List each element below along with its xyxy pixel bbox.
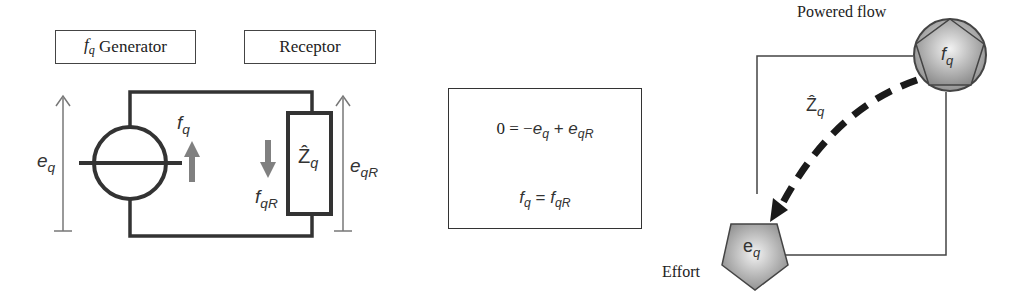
effort-label: Effort <box>662 263 700 281</box>
powered-flow-node-label: fq <box>941 44 953 68</box>
impedance-dashed-edge <box>778 80 917 212</box>
edge-impedance-label: Ẑq <box>806 95 824 119</box>
equation-flow: fq = fqR <box>449 188 641 210</box>
flow-arrow-down-icon <box>260 140 276 178</box>
equation-effort: 0 = −eq + eqR <box>449 119 641 141</box>
effort-left-label: eq <box>37 150 55 175</box>
effort-right-label: eqR <box>350 155 378 180</box>
graph-frame <box>757 56 946 255</box>
flow-arrow-up-icon <box>184 141 200 182</box>
effort-node-label: eq <box>743 236 760 260</box>
powered-flow-label: Powered flow <box>797 3 886 21</box>
effort-arrow-left <box>54 96 72 231</box>
impedance-label: Ẑq <box>298 145 318 171</box>
flow-generator-label: fq <box>177 112 190 137</box>
flow-receptor-label: fqR <box>255 186 278 211</box>
equations-box: 0 = −eq + eqR fq = fqR <box>448 88 642 229</box>
flow-source-icon <box>79 127 182 199</box>
